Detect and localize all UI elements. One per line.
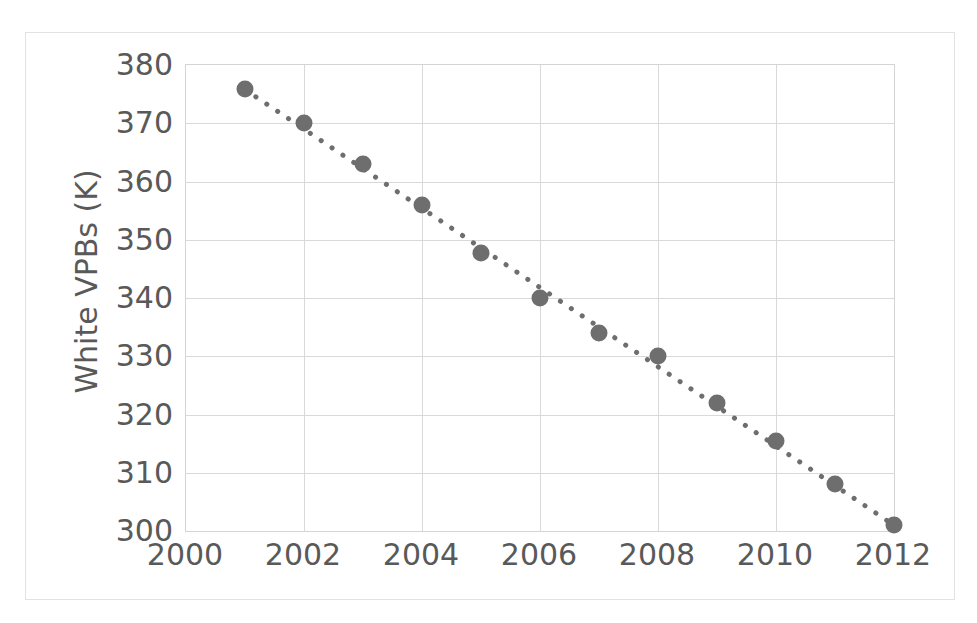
y-axis-tick-label: 360 bbox=[63, 167, 173, 197]
y-axis-tick-labels: 300310320330340350360370380 bbox=[55, 64, 173, 530]
x-axis-tick-labels: 2000200220042006200820102012 bbox=[185, 540, 893, 586]
y-axis-tick-label: 340 bbox=[63, 283, 173, 313]
y-axis-title-host: White VPBs (K) bbox=[26, 64, 56, 530]
plot-area bbox=[185, 64, 895, 532]
y-axis-tick-label: 380 bbox=[63, 50, 173, 80]
chart-figure: White VPBs (K) 3003103203303403503603703… bbox=[25, 32, 955, 600]
y-axis-tick-label: 350 bbox=[63, 225, 173, 255]
y-axis-tick-label: 370 bbox=[63, 108, 173, 138]
trendline bbox=[186, 65, 894, 531]
y-axis-tick-label: 330 bbox=[63, 341, 173, 371]
y-axis-tick-label: 310 bbox=[63, 458, 173, 488]
x-axis-tick-label: 2012 bbox=[823, 540, 963, 570]
y-axis-tick-label: 320 bbox=[63, 400, 173, 430]
